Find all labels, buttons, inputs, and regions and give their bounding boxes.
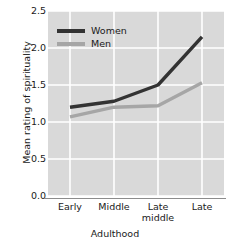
y-tick-label: 1.5 bbox=[24, 80, 46, 90]
x-tick-label-line2: middle bbox=[123, 212, 193, 223]
legend-label: Men bbox=[91, 39, 111, 49]
y-tick-label: 1.0 bbox=[24, 117, 46, 127]
y-tick-label: 2.0 bbox=[24, 43, 46, 53]
legend-label: Women bbox=[91, 26, 127, 36]
legend-swatch-women bbox=[57, 29, 85, 33]
legend-item: Men bbox=[57, 37, 157, 50]
x-axis-spine bbox=[44, 198, 226, 199]
chart-figure: Mean rating of spirituality 2.52.01.51.0… bbox=[0, 0, 230, 248]
series-line-men bbox=[70, 83, 202, 117]
x-axis-title: Adulthood bbox=[0, 228, 230, 239]
legend-item: Women bbox=[57, 24, 157, 37]
legend-swatch-men bbox=[57, 42, 85, 46]
y-tick-label: 2.5 bbox=[24, 6, 46, 16]
y-tick-label: 0.0 bbox=[24, 191, 46, 201]
chart-legend: WomenMen bbox=[57, 24, 157, 50]
x-tick-label: Late bbox=[167, 201, 230, 212]
y-tick-label: 0.5 bbox=[24, 154, 46, 164]
x-tick-label-line1: Late bbox=[167, 201, 230, 212]
x-axis-tick-labels: EarlyMiddleLatemiddleLate bbox=[48, 201, 224, 231]
